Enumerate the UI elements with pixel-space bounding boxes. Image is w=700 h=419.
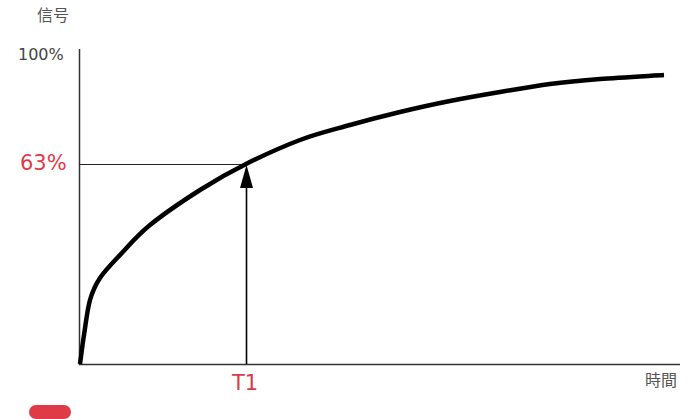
y-63-percent-label: 63% bbox=[20, 153, 67, 174]
x-t1-label: T1 bbox=[232, 373, 258, 394]
signal-curve bbox=[80, 75, 664, 364]
y-axis-title: 信号 bbox=[37, 8, 69, 24]
y-axis-max-label: 100% bbox=[18, 47, 64, 63]
x-axis-title: 時間 bbox=[645, 373, 677, 389]
corner-badge bbox=[29, 405, 71, 419]
